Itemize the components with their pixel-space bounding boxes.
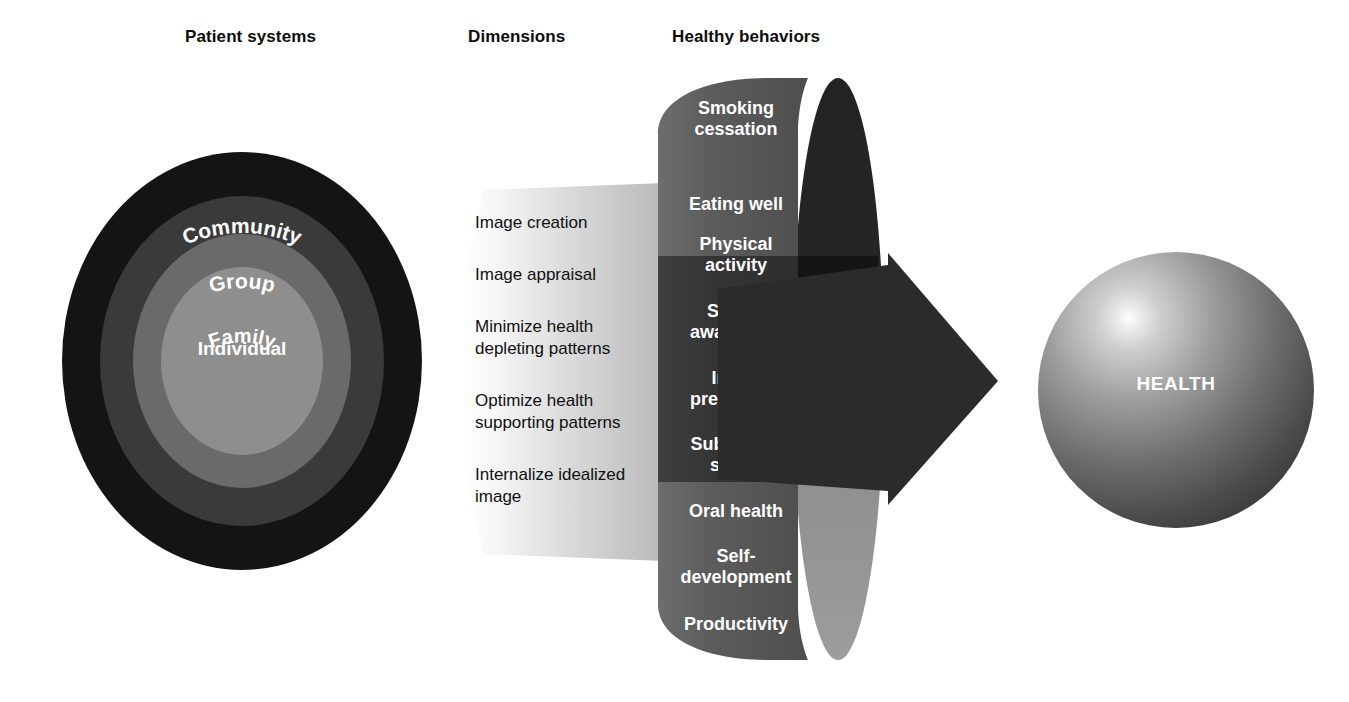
behavior-item: Productivity bbox=[656, 614, 816, 635]
ring-label-group: Group bbox=[207, 269, 278, 296]
health-sphere: HEALTH bbox=[1038, 252, 1314, 528]
ring-label-community: Community bbox=[179, 214, 306, 249]
ring-labels-arcs: Community Group Family bbox=[62, 152, 422, 570]
behavior-item: Eating well bbox=[656, 194, 816, 215]
dimension-item: Internalize idealized image bbox=[475, 464, 625, 508]
heading-dimensions: Dimensions bbox=[468, 27, 565, 47]
arrow-shape bbox=[718, 253, 998, 505]
patient-systems-rings: Community Group Family Individual bbox=[62, 152, 422, 570]
flow-arrow-icon bbox=[718, 253, 998, 516]
heading-healthy-behaviors: Healthy behaviors bbox=[672, 27, 820, 47]
diagram-canvas: Patient systems Dimensions Healthy behav… bbox=[0, 0, 1349, 702]
ring-label-community-text: Community bbox=[179, 214, 306, 249]
behavior-item: Smoking cessation bbox=[656, 98, 816, 140]
behavior-item: Self- development bbox=[656, 546, 816, 588]
dimension-item: Image appraisal bbox=[475, 264, 596, 286]
dimension-item: Minimize health depleting patterns bbox=[475, 316, 610, 360]
dimension-item: Image creation bbox=[475, 212, 587, 234]
dimension-item: Optimize health supporting patterns bbox=[475, 390, 621, 434]
health-label: HEALTH bbox=[1038, 373, 1314, 395]
ring-label-group-text: Group bbox=[207, 269, 278, 296]
ring-label-individual: Individual bbox=[62, 338, 422, 360]
heading-patient-systems: Patient systems bbox=[185, 27, 316, 47]
